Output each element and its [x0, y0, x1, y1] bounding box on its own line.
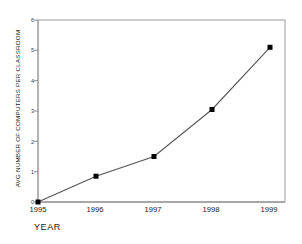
- data-point-1995: [36, 200, 41, 205]
- data-point-1998: [210, 107, 215, 112]
- data-line: [38, 47, 270, 202]
- data-point-1997: [152, 154, 157, 159]
- data-point-1999: [268, 45, 273, 50]
- data-point-1996: [94, 174, 99, 179]
- plot-area: [0, 0, 302, 244]
- chart-figure: AVG NUMBER OF COMPUTERS PER CLASSROOM YE…: [0, 0, 302, 244]
- data-markers: [36, 45, 273, 205]
- axis-frame: [38, 20, 285, 202]
